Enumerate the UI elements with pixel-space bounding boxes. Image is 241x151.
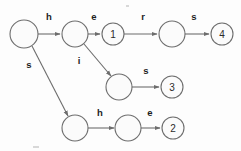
node-label-4: 4	[219, 29, 225, 40]
edge-label-hi-s: s	[143, 65, 148, 76]
edge-h-i-line	[84, 44, 111, 76]
edge-label-sh-e: e	[147, 107, 152, 118]
edge-label-root-s: s	[26, 59, 31, 70]
node-s[interactable]	[62, 115, 88, 141]
node-root[interactable]	[10, 20, 38, 48]
node-her[interactable]	[159, 21, 185, 47]
node-hi[interactable]	[106, 74, 132, 100]
edge-label-1-r: r	[141, 11, 145, 22]
node-label-1: 1	[110, 29, 116, 40]
scan-speck	[33, 146, 39, 148]
edge-label-root-h: h	[46, 11, 52, 22]
node-label-2: 2	[170, 123, 176, 134]
trie-diagram: h e r s i s s h e 1 4 3 2	[0, 0, 241, 151]
edge-label-s-h: h	[97, 107, 103, 118]
edge-label-h-e: e	[91, 11, 96, 22]
scan-speck	[126, 5, 129, 7]
edge-root-s-line	[32, 46, 68, 116]
node-sh[interactable]	[115, 115, 141, 141]
graph-canvas: h e r s i s s h e 1 4 3 2	[0, 0, 241, 151]
edge-label-h-i: i	[78, 55, 81, 66]
edge-label-her-s: s	[191, 11, 196, 22]
node-label-3: 3	[169, 82, 175, 93]
node-h[interactable]	[62, 21, 88, 47]
nodes-layer	[10, 20, 233, 141]
